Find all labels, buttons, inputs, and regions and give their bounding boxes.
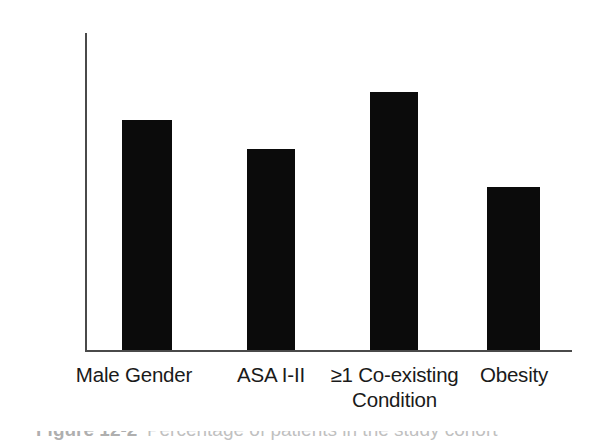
bar-slot — [487, 33, 540, 350]
bar-slot — [247, 33, 295, 350]
figure-caption-cropped: Figure 12-2 Percentage of patients in th… — [36, 431, 576, 442]
x-axis-category-label: Male Gender — [61, 362, 207, 387]
figure-caption-text: Figure 12-2 Percentage of patients in th… — [36, 431, 498, 442]
bar[interactable] — [247, 149, 295, 350]
bar[interactable] — [487, 187, 540, 350]
bar[interactable] — [370, 92, 418, 350]
bar-group — [85, 33, 572, 350]
bar[interactable] — [122, 120, 172, 350]
bar-slot — [122, 33, 172, 350]
bar-slot — [370, 33, 418, 350]
bar-chart-plot-area: 0%20%40%60%80%100% — [85, 33, 572, 352]
x-axis-category-labels: Male GenderASA I-II≥1 Co-existing Condit… — [85, 362, 572, 418]
figure-container: 0%20%40%60%80%100% Male GenderASA I-II≥1… — [0, 0, 592, 442]
x-axis-category-label: Obesity — [445, 362, 583, 387]
x-axis-line — [85, 350, 572, 352]
